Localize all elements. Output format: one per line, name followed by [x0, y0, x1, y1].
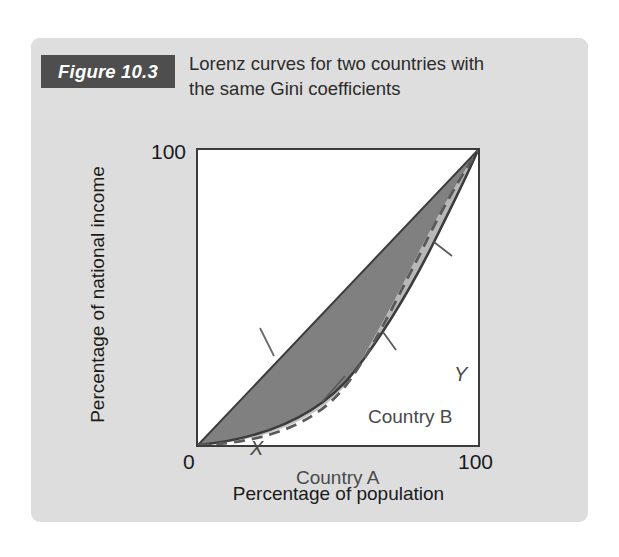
figure-title-line-2: the same Gini coefficients: [189, 76, 577, 101]
figure-number-chip: Figure 10.3: [41, 55, 175, 88]
leader-line-y: [434, 242, 452, 256]
line-of-equality: [198, 150, 478, 445]
label-country-b: Country B: [368, 407, 452, 426]
figure-number-label: Figure 10.3: [41, 55, 175, 88]
figure-header: Figure 10.3 Lorenz curves for two countr…: [31, 38, 588, 121]
label-area-x: X: [250, 438, 263, 458]
y-axis-title: Percentage of national income: [88, 145, 107, 445]
figure-panel: Figure 10.3 Lorenz curves for two countr…: [31, 38, 588, 522]
plot-area: [196, 148, 480, 447]
leader-line-country-b: [383, 332, 396, 350]
x-axis-tick-0: 0: [183, 451, 195, 472]
x-axis-tick-100: 100: [458, 451, 493, 472]
label-area-y: Y: [454, 364, 467, 384]
y-axis-tick-100: 100: [151, 141, 186, 162]
label-country-a: Country A: [296, 468, 379, 487]
figure-title-line-1: Lorenz curves for two countries with: [189, 51, 577, 76]
figure-title: Lorenz curves for two countries with the…: [189, 51, 577, 101]
lorenz-curve-plot: [198, 150, 478, 445]
chart-block: 100 0 100 Percentage of national income …: [31, 121, 588, 522]
leader-line-x: [260, 328, 274, 356]
